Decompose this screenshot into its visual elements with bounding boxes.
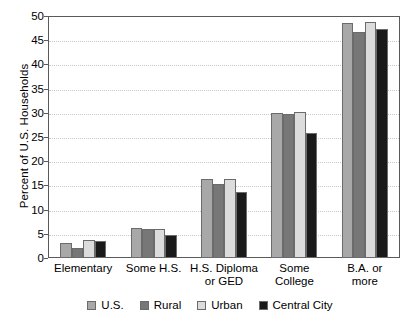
bar-chart: Percent of U.S. Households 0510152025303… [0, 0, 420, 323]
y-tick-mark [44, 137, 48, 138]
y-tick-label: 30 [14, 108, 44, 118]
y-tick-mark [44, 113, 48, 114]
y-tick-mark [44, 161, 48, 162]
legend-swatch-icon [197, 301, 206, 310]
gridline [49, 65, 399, 66]
legend-swatch-icon [259, 301, 268, 310]
y-tick-label: 50 [14, 11, 44, 21]
y-tick-mark [44, 210, 48, 211]
legend-item: Rural [140, 299, 181, 311]
legend-swatch-icon [87, 301, 96, 310]
y-tick-label: 45 [14, 35, 44, 45]
y-tick-label: 10 [14, 205, 44, 215]
gridline [49, 114, 399, 115]
gridline [49, 186, 399, 187]
plot-area [48, 16, 400, 258]
chart-legend: U.S.RuralUrbanCentral City [0, 299, 420, 311]
y-tick-mark [44, 64, 48, 65]
legend-label: Rural [154, 299, 181, 311]
y-tick-label: 25 [14, 132, 44, 142]
y-tick-mark [44, 258, 48, 259]
gridline [49, 41, 399, 42]
legend-item: Central City [259, 299, 333, 311]
legend-item: Urban [197, 299, 242, 311]
legend-label: Urban [211, 299, 242, 311]
y-tick-mark [44, 89, 48, 90]
gridline [49, 90, 399, 91]
y-tick-label: 5 [14, 229, 44, 239]
y-tick-label: 20 [14, 156, 44, 166]
y-tick-mark [44, 234, 48, 235]
x-group-label: B.A. ormore [318, 262, 412, 288]
gridline [49, 235, 399, 236]
y-tick-mark [44, 40, 48, 41]
y-tick-label: 35 [14, 84, 44, 94]
y-tick-label: 15 [14, 180, 44, 190]
legend-swatch-icon [140, 301, 149, 310]
y-tick-mark [44, 185, 48, 186]
legend-label: Central City [273, 299, 333, 311]
gridline [49, 162, 399, 163]
y-tick-label: 40 [14, 59, 44, 69]
y-tick-mark [44, 16, 48, 17]
legend-label: U.S. [101, 299, 123, 311]
gridline [49, 211, 399, 212]
gridline [49, 138, 399, 139]
legend-item: U.S. [87, 299, 123, 311]
